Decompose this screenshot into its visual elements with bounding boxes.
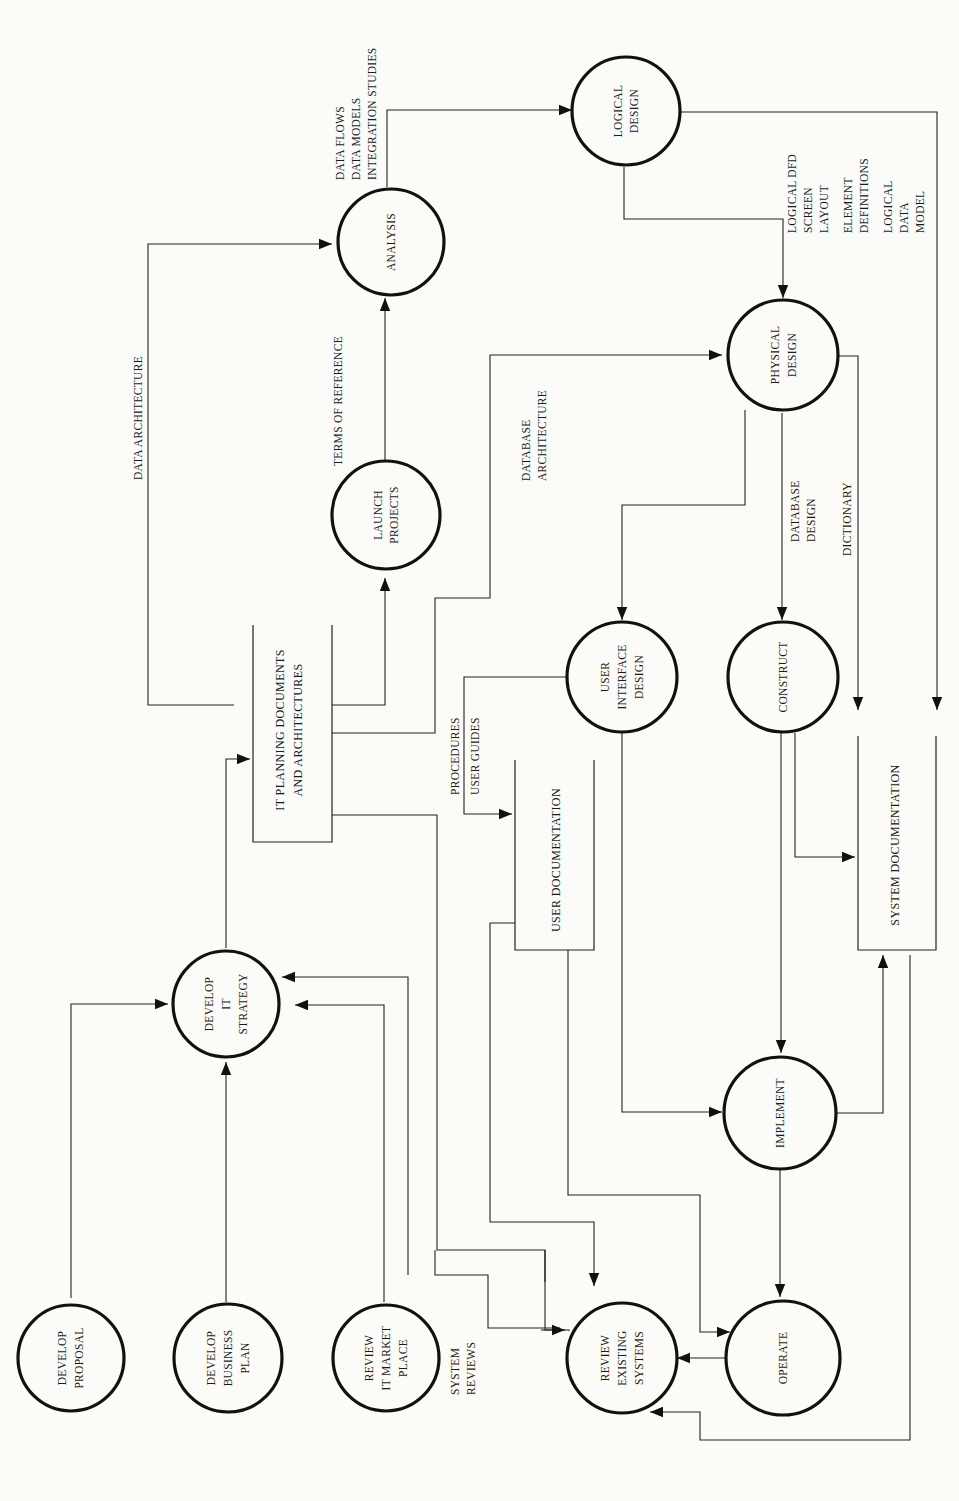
process-label: PLACE (397, 1339, 409, 1377)
process-review-it-market-place: REVIEW IT MARKET PLACE (333, 1305, 439, 1411)
system-documentation-label: SYSTEM DOCUMENTATION (888, 764, 902, 925)
process-physical-design: PHYSICAL DESIGN (728, 300, 838, 410)
process-label: USER (599, 662, 611, 693)
process-label: DEVELOP (203, 977, 215, 1032)
flow-to-review-left (545, 1250, 569, 1331)
label-database: DATABASE (520, 419, 532, 481)
flow-logical-to-physical (624, 167, 783, 298)
label-database-design-1: DATABASE (789, 480, 801, 542)
process-label: INTERFACE (616, 644, 628, 709)
label-dictionary: DICTIONARY (841, 482, 853, 556)
process-analysis: ANALYSIS (338, 189, 444, 295)
process-implement: IMPLEMENT (724, 1057, 836, 1169)
label-user-guides: USER GUIDES (469, 717, 481, 795)
label-logical: LOGICAL (882, 180, 894, 233)
label-model: MODEL (914, 191, 926, 233)
flow-strategy-to-itplanning (226, 759, 250, 948)
flow-reviews-to-strategy-1 (282, 977, 408, 1275)
flow-itplanning-to-review (332, 815, 545, 1282)
process-develop-business-plan: DEVELOP BUSINESS PLAN (174, 1304, 282, 1412)
process-label: PHYSICAL (769, 326, 781, 385)
process-label: DESIGN (786, 333, 798, 377)
process-label: PROJECTS (388, 486, 400, 543)
label-screen: SCREEN (802, 187, 814, 233)
flow-analysis-to-logical (387, 110, 572, 187)
process-label: IMPLEMENT (774, 1078, 786, 1148)
label-data-flows: DATA FLOWS (334, 106, 346, 180)
process-label: STRATEGY (237, 973, 249, 1035)
data-store-it-planning: IT PLANNING DOCUMENTS AND ARCHITECTURES (253, 625, 332, 842)
label-definitions: DEFINITIONS (858, 158, 870, 233)
flow-uid-to-implement (622, 733, 722, 1112)
process-label: OPERATE (777, 1332, 789, 1385)
flow-data-architecture (148, 244, 332, 705)
process-label: CONSTRUCT (777, 641, 789, 712)
label-integration-studies: INTEGRATION STUDIES (366, 47, 378, 180)
process-label: DESIGN (628, 89, 640, 133)
label-element: ELEMENT (842, 177, 854, 233)
flow-itplanning-to-launch (332, 578, 385, 705)
label-terms-of-reference: TERMS OF REFERENCE (332, 336, 344, 466)
process-operate: OPERATE (726, 1301, 840, 1415)
process-label: IT MARKET (380, 1326, 392, 1391)
process-label: REVIEW (363, 1335, 375, 1382)
flow-physical-to-uid (622, 410, 745, 620)
label-reviews: REVIEWS (465, 1342, 477, 1395)
process-label: ANALYSIS (385, 213, 397, 271)
it-planning-label-1: IT PLANNING DOCUMENTS (273, 649, 287, 811)
process-label: LOGICAL (612, 85, 624, 138)
process-label: DEVELOP (205, 1331, 217, 1386)
label-data-models: DATA MODELS (350, 97, 362, 180)
label-data: DATA (898, 202, 910, 233)
it-planning-label-2: AND ARCHITECTURES (291, 663, 305, 796)
label-layout: LAYOUT (818, 185, 830, 233)
process-develop-proposal: DEVELOP PROPOSAL (18, 1305, 124, 1411)
label-procedures: PROCEDURES (449, 717, 461, 795)
flow-userdoc-to-review (490, 923, 594, 1286)
label-system: SYSTEM (449, 1348, 461, 1395)
data-store-system-documentation: SYSTEM DOCUMENTATION (858, 736, 936, 950)
label-architecture: ARCHITECTURE (536, 390, 548, 481)
process-launch-projects: LAUNCH PROJECTS (332, 461, 440, 569)
flow-construct-to-sysdoc (795, 733, 855, 857)
process-user-interface-design: USER INTERFACE DESIGN (567, 622, 677, 732)
process-label: REVIEW (599, 1335, 611, 1382)
process-label: PROPOSAL (73, 1327, 85, 1388)
process-label: LAUNCH (372, 490, 384, 540)
process-develop-it-strategy: DEVELOP IT STRATEGY (173, 951, 279, 1057)
process-label: BUSINESS (222, 1330, 234, 1387)
data-flow-diagram: IT PLANNING DOCUMENTS AND ARCHITECTURES … (0, 0, 959, 1501)
flow-implement-to-sysdoc (836, 955, 883, 1113)
user-documentation-label: USER DOCUMENTATION (549, 788, 563, 932)
flow-userdoc-to-operate (568, 950, 730, 1332)
process-label: SYSTEMS (633, 1331, 645, 1385)
flow-marketplace-to-strategy (295, 1005, 384, 1302)
process-label: EXISTING (616, 1330, 628, 1385)
process-review-existing-systems: REVIEW EXISTING SYSTEMS (567, 1303, 677, 1413)
data-store-user-documentation: USER DOCUMENTATION (515, 760, 594, 950)
process-label: PLAN (239, 1342, 251, 1374)
process-label: DEVELOP (56, 1331, 68, 1386)
process-label: DESIGN (633, 655, 645, 699)
process-construct: CONSTRUCT (728, 622, 838, 732)
flow-proposal-to-strategy (71, 1004, 168, 1298)
label-data-architecture: DATA ARCHITECTURE (132, 356, 144, 480)
process-label: IT (220, 998, 232, 1009)
label-database-design-2: DESIGN (805, 498, 817, 542)
label-logical-dfd: LOGICAL DFD (786, 154, 798, 233)
flow-reviews-to-strategy-2 (435, 1250, 560, 1328)
process-logical-design: LOGICAL DESIGN (572, 57, 680, 165)
